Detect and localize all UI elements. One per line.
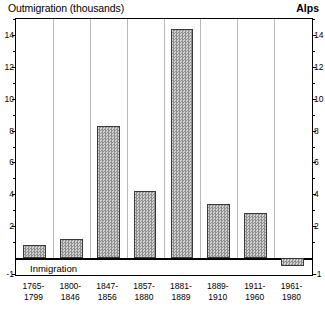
y-axis-minor-tick xyxy=(13,178,16,179)
zero-axis-line xyxy=(16,258,312,260)
x-axis-category-line: 1765- xyxy=(15,281,52,292)
x-axis-category-line: 1800- xyxy=(52,281,89,292)
x-axis-category-line: 1881- xyxy=(163,281,200,292)
y-axis-tick-label: 4 xyxy=(2,190,14,199)
x-axis-category-line: 1911- xyxy=(236,281,273,292)
x-axis-category-label: 1857-1880 xyxy=(126,281,163,302)
y-axis-tick-label: 2 xyxy=(2,222,14,231)
x-axis-category-line: 1847- xyxy=(89,281,126,292)
x-axis-category-line: 1961- xyxy=(273,281,310,292)
y-axis-tick-label: 14 xyxy=(2,31,14,40)
y-axis-minor-tick xyxy=(13,147,16,148)
y-axis-minor-tick xyxy=(13,19,16,20)
x-axis-category-line: 1980 xyxy=(273,292,310,303)
x-axis-category-line: 1880 xyxy=(126,292,163,303)
bar xyxy=(244,213,267,258)
y-axis-tick-label: 6 xyxy=(314,158,325,167)
x-axis-category-line: 1889- xyxy=(199,281,236,292)
x-axis-labels: 1765-17991800-18461847-18561857-18801881… xyxy=(15,281,313,311)
x-axis-category-line: 1846 xyxy=(52,292,89,303)
y-axis-tick-label: 12 xyxy=(314,63,325,72)
y-axis-minor-tick xyxy=(312,83,315,84)
y-axis-tick-label: 4 xyxy=(314,190,325,199)
y-axis-minor-tick xyxy=(13,115,16,116)
x-axis-category-label: 1911-1960 xyxy=(236,281,273,302)
x-axis-category-label: 1961-1980 xyxy=(273,281,310,302)
y-axis-tick-label: -1 xyxy=(314,270,325,279)
x-axis-category-line: 1857- xyxy=(126,281,163,292)
y-axis-tick-label: 6 xyxy=(2,158,14,167)
y-axis-minor-tick xyxy=(312,242,315,243)
x-axis-category-line: 1889 xyxy=(163,292,200,303)
vertical-gridline xyxy=(237,19,238,258)
y-axis-minor-tick xyxy=(312,147,315,148)
y-axis-minor-tick xyxy=(13,210,16,211)
bar xyxy=(60,239,83,258)
y-axis-tick-label: 14 xyxy=(314,31,325,40)
y-axis-minor-tick xyxy=(312,178,315,179)
y-axis-minor-tick xyxy=(312,51,315,52)
vertical-gridline xyxy=(274,19,275,258)
y-axis-tick-label: 10 xyxy=(2,95,14,104)
vertical-gridline xyxy=(90,19,91,258)
x-axis-category-label: 1800-1846 xyxy=(52,281,89,302)
page-title: Outmigration (thousands) xyxy=(8,2,124,14)
bar xyxy=(281,258,304,266)
y-axis-minor-tick xyxy=(13,51,16,52)
y-axis-tick-label: 8 xyxy=(2,127,14,136)
x-axis-category-label: 1889-1910 xyxy=(199,281,236,302)
bar xyxy=(171,29,194,259)
bar xyxy=(134,191,157,258)
x-axis-category-label: 1881-1889 xyxy=(163,281,200,302)
y-axis-tick-label: -1 xyxy=(2,270,14,279)
inmigration-annotation: Inmigration xyxy=(30,263,77,274)
y-axis-tick-label: 2 xyxy=(314,222,325,231)
chart-header: Outmigration (thousands) Alps xyxy=(0,0,325,18)
x-axis-category-line: 1799 xyxy=(15,292,52,303)
x-axis-category-label: 1765-1799 xyxy=(15,281,52,302)
migration-bar-chart: Outmigration (thousands) Alps 1414121210… xyxy=(0,0,325,314)
vertical-gridline xyxy=(200,19,201,258)
y-axis-minor-tick xyxy=(13,83,16,84)
bar xyxy=(23,245,46,258)
plot-frame: 14141212101088664422-1-1Inmigration xyxy=(15,18,313,276)
x-axis-category-line: 1910 xyxy=(199,292,236,303)
y-axis-tick-label: 8 xyxy=(314,127,325,136)
bar xyxy=(207,204,230,258)
vertical-gridline xyxy=(53,19,54,258)
y-axis-minor-tick xyxy=(312,115,315,116)
x-axis-category-line: 1856 xyxy=(89,292,126,303)
x-axis-category-line: 1960 xyxy=(236,292,273,303)
bar xyxy=(97,126,120,258)
region-label: Alps xyxy=(296,2,319,14)
x-axis-category-label: 1847-1856 xyxy=(89,281,126,302)
vertical-gridline xyxy=(127,19,128,258)
plot-area: 14141212101088664422-1-1Inmigration xyxy=(16,19,312,275)
vertical-gridline xyxy=(164,19,165,258)
y-axis-tick-label: 10 xyxy=(314,95,325,104)
y-axis-minor-tick xyxy=(312,210,315,211)
y-axis-minor-tick xyxy=(13,242,16,243)
y-axis-minor-tick xyxy=(312,19,315,20)
y-axis-tick-label: 12 xyxy=(2,63,14,72)
